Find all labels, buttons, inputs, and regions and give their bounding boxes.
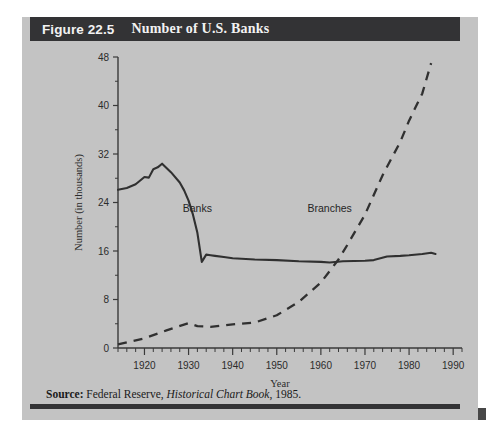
x-tick-label: 1960	[310, 360, 333, 371]
chart-area: 0816243240481920193019401950196019701980…	[22, 41, 478, 388]
series-annotation-branches: Branches	[308, 202, 352, 214]
y-tick-label: 0	[103, 343, 109, 354]
y-tick-label: 16	[98, 246, 110, 257]
source-publisher: Federal Reserve,	[86, 388, 163, 400]
source-note: Source: Federal Reserve, Historical Char…	[46, 388, 301, 400]
y-tick-label: 48	[98, 52, 110, 63]
y-tick-label: 32	[98, 149, 110, 160]
figure-header-bar: Figure 22.5 Number of U.S. Banks	[30, 17, 460, 41]
figure-number: Figure 22.5	[42, 22, 114, 37]
figure-footer-bar	[30, 404, 460, 409]
series-line-banks	[118, 164, 436, 263]
figure-title: Number of U.S. Banks	[131, 21, 269, 37]
source-year: , 1985.	[269, 388, 301, 400]
x-tick-label: 1980	[398, 360, 421, 371]
figure-screenshot: Figure 22.5 Number of U.S. Banks 0816243…	[0, 0, 500, 439]
x-axis-title: Year	[270, 378, 290, 388]
y-tick-label: 40	[98, 100, 110, 111]
series-line-branches	[118, 63, 431, 344]
y-tick-label: 24	[98, 197, 110, 208]
x-tick-label: 1940	[222, 360, 245, 371]
x-tick-label: 1970	[354, 360, 377, 371]
y-axis-title: Number (in thousands)	[73, 154, 85, 251]
x-tick-label: 1920	[133, 360, 156, 371]
x-tick-label: 1950	[266, 360, 289, 371]
line-chart: 0816243240481920193019401950196019701980…	[22, 41, 478, 388]
source-label: Source:	[46, 388, 83, 400]
x-tick-label: 1990	[442, 360, 465, 371]
source-title: Historical Chart Book	[167, 388, 270, 400]
series-annotation-banks: Banks	[183, 202, 212, 214]
x-tick-label: 1930	[177, 360, 200, 371]
y-tick-label: 8	[103, 294, 109, 305]
